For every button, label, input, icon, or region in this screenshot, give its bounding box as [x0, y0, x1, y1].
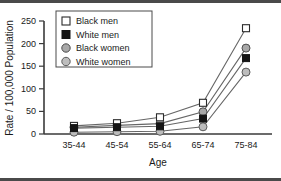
- line-chart-plot: Rate / 100,000 Population 250 200 150 10…: [0, 0, 281, 181]
- y-tick-label-250: 250: [21, 16, 36, 26]
- legend-label-black-women: Black women: [76, 43, 130, 53]
- legend-marker-black-men: [62, 17, 70, 25]
- legend-marker-white-men: [62, 31, 70, 39]
- x-tick-label-45-54: 45-54: [105, 140, 128, 150]
- x-tick-label-75-84: 75-84: [234, 140, 257, 150]
- y-tick-label-150: 150: [21, 61, 36, 71]
- y-tick-label-0: 0: [31, 129, 36, 139]
- legend-label-white-men: White men: [76, 30, 119, 40]
- x-tick-label-35-44: 35-44: [62, 140, 85, 150]
- y-tick-label-200: 200: [21, 39, 36, 49]
- y-tick-label-100: 100: [21, 84, 36, 94]
- legend-label-black-men: Black men: [76, 16, 118, 26]
- x-tick-label-65-74: 65-74: [191, 140, 214, 150]
- legend-marker-black-women: [62, 44, 70, 52]
- x-axis-title: Age: [149, 157, 167, 168]
- x-tick-label-55-64: 55-64: [148, 140, 171, 150]
- y-tick-label-50: 50: [26, 106, 36, 116]
- legend-label-white-women: White women: [76, 57, 131, 67]
- y-axis-title: Rate / 100,000 Population: [4, 20, 15, 136]
- chart-figure: Rate / 100,000 Population 250 200 150 10…: [0, 0, 281, 181]
- legend-marker-white-women: [62, 57, 70, 65]
- chart-legend: Black men White men Black women White wo…: [56, 11, 152, 67]
